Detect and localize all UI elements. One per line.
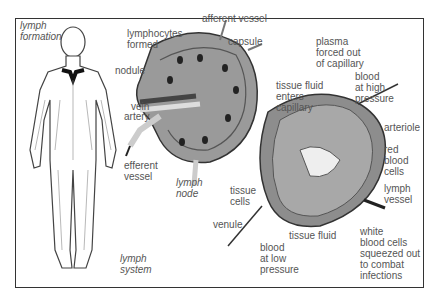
label-red-blood-cells: red blood cells <box>384 144 408 177</box>
label-lymph-formation: lymph formation <box>20 20 62 42</box>
label-white-blood-cells: white blood cells squeezed out to combat… <box>360 226 420 281</box>
label-blood-low-pressure: blood at low pressure <box>260 242 299 275</box>
label-arteriole: arteriole <box>384 122 420 133</box>
label-lymph-node: lymph node <box>176 177 203 199</box>
label-lymph-system: lymph system <box>120 253 152 275</box>
label-tissue-fluid: tissue fluid <box>289 230 336 241</box>
label-tissue-cells: tissue cells <box>230 185 256 207</box>
label-nodule: nodule <box>115 65 145 76</box>
label-plasma-forced-out: plasma forced out of capillary <box>316 36 364 69</box>
label-capsule: capsule <box>228 36 262 47</box>
label-venule: venule <box>213 219 242 230</box>
label-lymphocytes-formed: lymphocytes formed <box>127 28 183 50</box>
label-efferent-vessel: efferent vessel <box>124 160 158 182</box>
label-tissue-fluid-enters: tissue fluid enters capillary <box>276 80 323 113</box>
label-afferent-vessel: afferent vessel <box>202 13 267 24</box>
label-blood-high-pressure: blood at high pressure <box>355 71 394 104</box>
label-artery: artery <box>124 111 150 122</box>
label-lymph-vessel: lymph vessel <box>384 183 412 205</box>
